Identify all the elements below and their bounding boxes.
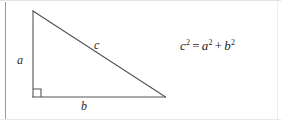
equation-b-exponent: 2 bbox=[231, 38, 235, 47]
figure-canvas: a c b c2=a2+b2 bbox=[0, 0, 281, 121]
label-side-b: b bbox=[81, 100, 87, 112]
label-side-c: c bbox=[94, 39, 99, 51]
label-side-a: a bbox=[17, 54, 23, 66]
pythagorean-equation: c2=a2+b2 bbox=[180, 38, 235, 54]
triangle-hypotenuse-line bbox=[33, 11, 166, 97]
equation-plus-sign: + bbox=[213, 38, 225, 53]
right-triangle-diagram bbox=[0, 0, 281, 121]
equation-a-exponent: 2 bbox=[208, 38, 212, 47]
equation-b-base: b bbox=[224, 38, 231, 53]
right-angle-marker-icon bbox=[33, 89, 41, 97]
equation-equals-sign: = bbox=[190, 38, 202, 53]
